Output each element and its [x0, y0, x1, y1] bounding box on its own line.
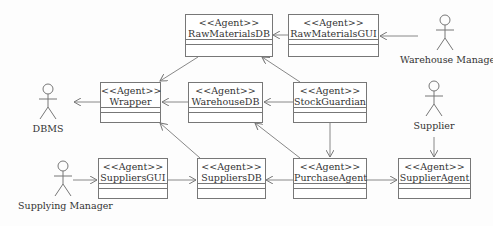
agent-suppliers-db[interactable]: <<Agent>>SuppliersDB — [197, 158, 266, 199]
stick-figure-icon — [51, 160, 75, 198]
agent-name: SuppliersGUI — [99, 172, 167, 183]
stereotype-label: <<Agent>> — [99, 161, 167, 172]
agent-wrapper[interactable]: <<Agent>>Wrapper — [100, 82, 161, 123]
agent-raw-materials-gui[interactable]: <<Agent>>RawMaterialsGUI — [288, 14, 379, 57]
stick-figure-icon — [422, 80, 446, 118]
stick-figure-icon — [433, 14, 457, 52]
actor-supplier[interactable]: Supplier — [410, 80, 458, 131]
stereotype-label: <<Agent>> — [186, 17, 272, 28]
agent-name: WarehouseDB — [189, 96, 262, 107]
actor-dbms[interactable]: DBMS — [28, 83, 68, 134]
actor-label: Supplier — [410, 120, 458, 131]
stereotype-label: <<Agent>> — [399, 161, 470, 172]
stereotype-label: <<Agent>> — [294, 85, 366, 96]
stereotype-label: <<Agent>> — [101, 85, 160, 96]
agent-name: PurchaseAgent — [294, 172, 366, 183]
agent-name: StockGuardian — [294, 96, 366, 107]
stereotype-label: <<Agent>> — [289, 17, 378, 28]
agent-warehouse-db[interactable]: <<Agent>>WarehouseDB — [188, 82, 263, 123]
agent-name: RawMaterialsGUI — [289, 28, 378, 39]
stick-figure-icon — [36, 83, 60, 121]
agent-suppliers-gui[interactable]: <<Agent>>SuppliersGUI — [98, 158, 168, 199]
agent-name: Wrapper — [101, 96, 160, 107]
actor-label: Warehouse Manager — [400, 54, 490, 65]
agent-purchase-agent[interactable]: <<Agent>>PurchaseAgent — [293, 158, 367, 199]
agent-stock-guardian[interactable]: <<Agent>>StockGuardian — [293, 82, 367, 123]
agent-name: RawMaterialsDB — [186, 28, 272, 39]
actor-label: Supplying Manager — [18, 200, 108, 211]
actor-label: DBMS — [28, 123, 68, 134]
stereotype-label: <<Agent>> — [198, 161, 265, 172]
actor-warehouse-manager[interactable]: Warehouse Manager — [400, 14, 490, 65]
actor-supplying-manager[interactable]: Supplying Manager — [18, 160, 108, 211]
agent-supplier-agent[interactable]: <<Agent>>SupplierAgent — [398, 158, 471, 199]
agent-name: SupplierAgent — [399, 172, 470, 183]
stereotype-label: <<Agent>> — [294, 161, 366, 172]
stereotype-label: <<Agent>> — [189, 85, 262, 96]
agent-name: SuppliersDB — [198, 172, 265, 183]
agent-raw-materials-db[interactable]: <<Agent>>RawMaterialsDB — [185, 14, 273, 57]
agent-diagram: <<Agent>>RawMaterialsDB <<Agent>>RawMate… — [0, 0, 493, 226]
